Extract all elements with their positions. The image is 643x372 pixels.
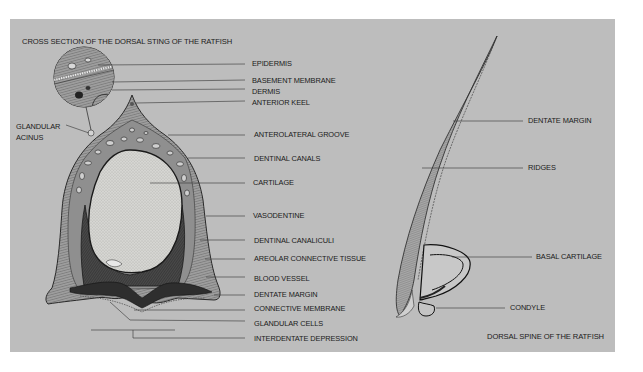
label-dentinal-canals: DENTINAL CANALS <box>254 155 320 162</box>
label-dentate-margin-right: DENTATE MARGIN <box>528 117 592 124</box>
label-ridges: RIDGES <box>528 164 556 171</box>
label-dentinal-canaliculi: DENTINAL CANALICULI <box>254 237 334 244</box>
label-basement-membrane: BASEMENT MEMBRANE <box>252 77 336 84</box>
label-anterior-keel: ANTERIOR KEEL <box>252 99 310 106</box>
label-areolar-connective-tissue: AREOLAR CONNECTIVE TISSUE <box>254 255 366 262</box>
spine-title: DORSAL SPINE OF THE RATFISH <box>487 333 604 341</box>
label-connective-membrane: CONNECTIVE MEMBRANE <box>254 305 345 312</box>
label-dentate-margin-left: DENTATE MARGIN <box>254 291 318 298</box>
label-condyle: CONDYLE <box>510 304 545 311</box>
label-interdentate-depression: INTERDENTATE DEPRESSION <box>254 335 358 342</box>
label-vasodentine: VASODENTINE <box>253 212 304 219</box>
label-anterolateral-groove: ANTEROLATERAL GROOVE <box>254 131 349 138</box>
cross-section-illustration <box>46 95 220 312</box>
dorsal-spine-illustration <box>396 36 497 317</box>
label-epidermis: EPIDERMIS <box>252 60 292 67</box>
label-glandular-cells: GLANDULAR CELLS <box>254 320 323 327</box>
label-blood-vessel: BLOOD VESSEL <box>254 275 310 282</box>
epidermis-inset-illustration <box>54 47 114 130</box>
diagram-artwork <box>0 0 643 372</box>
label-acinus: ACINUS <box>16 134 43 141</box>
label-basal-cartilage: BASAL CARTILAGE <box>536 253 602 260</box>
cross-section-title: CROSS SECTION OF THE DORSAL STING OF THE… <box>22 38 232 46</box>
label-cartilage: CARTILAGE <box>253 179 294 186</box>
label-dermis: DERMIS <box>252 88 280 95</box>
label-glandular: GLANDULAR <box>16 123 60 130</box>
